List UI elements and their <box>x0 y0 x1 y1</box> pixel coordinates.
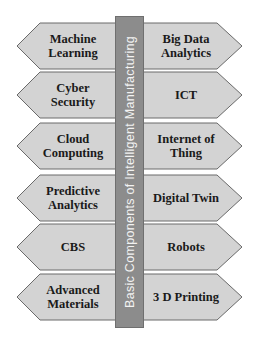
component-digital-twin: Digital Twin <box>143 175 229 221</box>
component-advanced-materials: Advanced Materials <box>30 274 116 320</box>
component-cyber-security: Cyber Security <box>30 72 116 118</box>
component-cbs: CBS <box>30 224 116 270</box>
intelligent-manufacturing-diagram: Machine Learning Big Data Analytics Cybe… <box>0 0 256 345</box>
component-predictive-analytics: Predictive Analytics <box>30 175 116 221</box>
component-robots: Robots <box>143 224 229 270</box>
component-ict: ICT <box>143 72 229 118</box>
component-internet-of-thing: Internet of Thing <box>143 123 229 169</box>
component-cloud-computing: Cloud Computing <box>30 123 116 169</box>
component-big-data-analytics: Big Data Analytics <box>143 23 229 69</box>
diagram-title: Basic Components of Intelligent Manufact… <box>123 36 137 308</box>
component-machine-learning: Machine Learning <box>30 23 116 69</box>
central-title-bar: Basic Components of Intelligent Manufact… <box>115 16 144 328</box>
component-3d-printing: 3 D Printing <box>143 274 229 320</box>
